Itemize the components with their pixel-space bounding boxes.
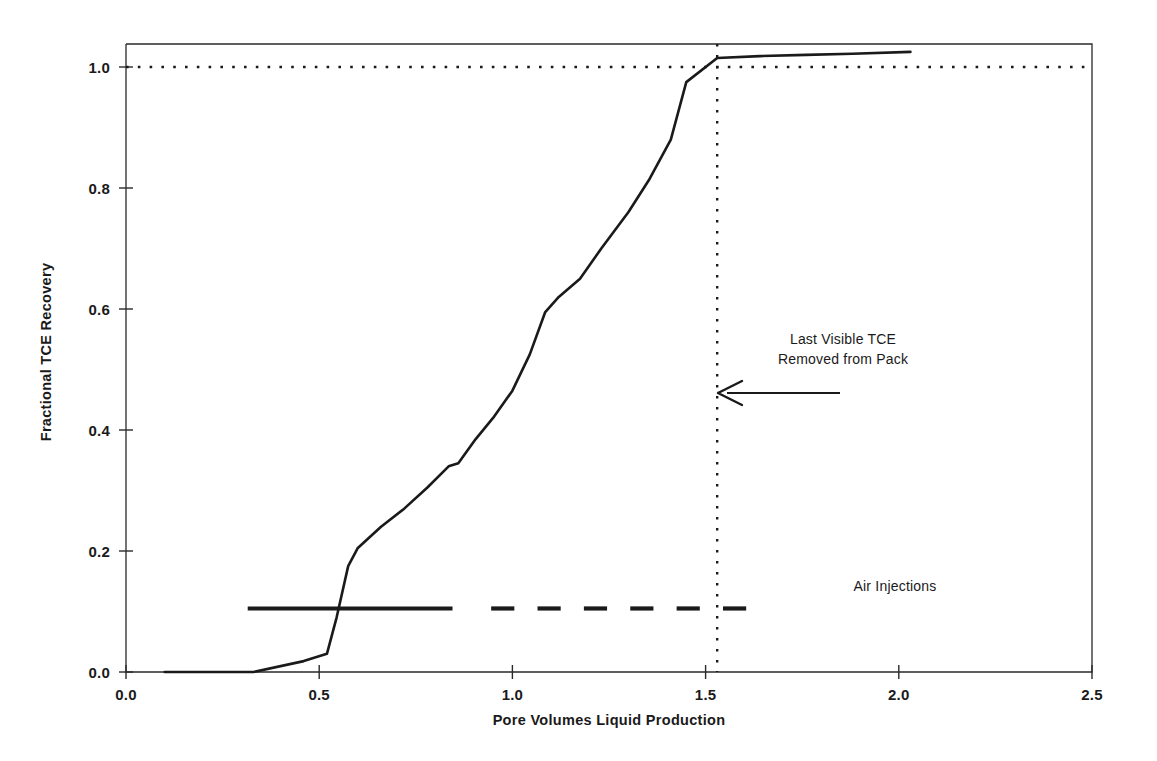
- x-axis-tick-label: 0.5: [308, 686, 329, 703]
- plot-frame: [126, 44, 1092, 672]
- y-axis-tick-label: 0.4: [60, 422, 110, 439]
- x-axis-tick-label: 0.0: [115, 686, 136, 703]
- annotation-line-2: Removed from Pack: [778, 349, 908, 369]
- annotation-line-1: Last Visible TCE: [778, 329, 908, 349]
- x-axis-tick-label: 2.0: [888, 686, 909, 703]
- x-axis-tick-label: 2.5: [1081, 686, 1102, 703]
- y-axis-tick-label: 1.0: [60, 59, 110, 76]
- y-axis-tick-label: 0.8: [60, 180, 110, 197]
- y-axis-tick-label: 0.6: [60, 301, 110, 318]
- annotation-arrow-icon: [718, 381, 840, 405]
- x-axis-tick-label: 1.5: [695, 686, 716, 703]
- last-visible-tce-annotation: Last Visible TCE Removed from Pack: [778, 329, 908, 369]
- x-axis-tick-label: 1.0: [502, 686, 523, 703]
- chart-figure: 0.00.20.40.60.81.0 0.00.51.01.52.02.5 Fr…: [0, 0, 1157, 761]
- air-injections-annotation: Air Injections: [854, 578, 937, 594]
- y-axis-tick-label: 0.0: [60, 664, 110, 681]
- y-axis-title: Fractional TCE Recovery: [38, 263, 54, 442]
- x-axis-title: Pore Volumes Liquid Production: [493, 712, 726, 728]
- y-axis-tick-label: 0.2: [60, 543, 110, 560]
- chart-plot-area: [0, 0, 1157, 761]
